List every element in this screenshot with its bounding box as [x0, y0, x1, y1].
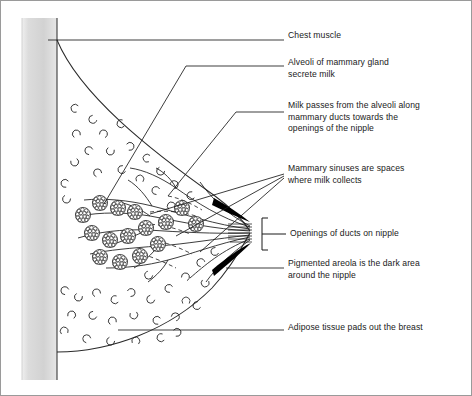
- label-duct-openings: Openings of ducts on nipple: [290, 228, 399, 240]
- label-chest-muscle: Chest muscle: [288, 30, 341, 42]
- breast-anatomy-illustration: [0, 0, 472, 396]
- label-mammary-sinuses: Mammary sinuses are spaces where milk co…: [288, 163, 404, 186]
- label-pigmented-areola: Pigmented areola is the dark area around…: [288, 258, 420, 281]
- label-milk-passes: Milk passes from the alveoli along mamma…: [288, 100, 420, 135]
- figure-border: [1, 1, 472, 396]
- label-alveoli: Alveoli of mammary gland secrete milk: [288, 57, 389, 80]
- label-adipose-tissue: Adipose tissue pads out the breast: [288, 322, 423, 334]
- diagram-canvas: Chest muscle Alveoli of mammary gland se…: [0, 0, 472, 396]
- chest-wall: [22, 18, 57, 380]
